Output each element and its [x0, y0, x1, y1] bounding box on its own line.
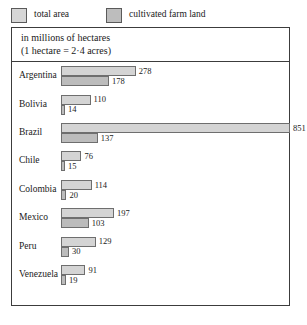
- bar-farm: [61, 218, 89, 228]
- legend-label-cultivated-farm-land: cultivated farm land: [129, 10, 206, 20]
- bar-row-farm: 30: [61, 247, 287, 257]
- country-label: Bolivia: [19, 100, 47, 110]
- bar-row-farm: 20: [61, 190, 287, 200]
- bar-farm: [61, 161, 65, 171]
- bar-row-total: 110: [61, 95, 287, 105]
- bar-row-total: 197: [61, 208, 287, 218]
- legend-item-cultivated-farm-land: cultivated farm land: [106, 8, 206, 23]
- bar-total: [61, 208, 114, 218]
- country-label: Chile: [19, 157, 40, 167]
- bar-row-farm: 19: [61, 275, 287, 285]
- chart-legend: total area cultivated farm land: [11, 5, 206, 25]
- chart-row: Bolivia11014: [12, 90, 289, 118]
- bar-value-farm: 14: [68, 105, 77, 114]
- chart-title: in millions of hectares: [21, 32, 289, 45]
- bar-value-farm: 20: [69, 191, 78, 200]
- bar-value-total: 197: [117, 209, 130, 218]
- bar-farm: [61, 133, 98, 143]
- bar-row-total: 278: [61, 66, 287, 76]
- bar-group: 197103: [61, 208, 287, 228]
- chart-plot-area: Argentina278178Bolivia11014Brazil851137C…: [12, 62, 289, 305]
- country-label: Colombia: [19, 185, 56, 195]
- bar-group: 7615: [61, 151, 287, 171]
- chart-row: Chile7615: [12, 147, 289, 175]
- bar-group: 12930: [61, 237, 287, 257]
- chart-title-block: in millions of hectares (1 hectare = 2·4…: [12, 28, 289, 62]
- bar-row-total: 114: [61, 180, 287, 190]
- bar-total: [61, 237, 96, 247]
- bar-farm: [61, 275, 66, 285]
- bar-value-farm: 178: [112, 77, 125, 86]
- legend-item-total-area: total area: [11, 8, 69, 23]
- chart-row: Peru12930: [12, 232, 289, 260]
- legend-swatch-total-area: [11, 8, 27, 23]
- bar-group: 851137: [61, 123, 287, 143]
- country-label: Mexico: [19, 213, 48, 223]
- bar-total: [61, 66, 136, 76]
- country-label: Peru: [19, 242, 36, 252]
- bar-value-total: 91: [88, 266, 97, 275]
- country-label: Argentina: [19, 71, 57, 81]
- bar-total: [61, 265, 85, 275]
- bar-row-total: 129: [61, 237, 287, 247]
- bar-total: [61, 180, 92, 190]
- chart-subtitle: (1 hectare = 2·4 acres): [21, 45, 289, 58]
- bar-row-farm: 14: [61, 105, 287, 115]
- bar-value-farm: 103: [92, 219, 105, 228]
- bar-value-farm: 19: [69, 276, 78, 285]
- bar-total: [61, 151, 81, 161]
- country-label: Venezuela: [19, 270, 58, 280]
- bar-value-total: 76: [84, 152, 93, 161]
- bar-value-farm: 15: [68, 162, 77, 171]
- bar-farm: [61, 190, 66, 200]
- bar-farm: [61, 247, 69, 257]
- chart-row: Venezuela9119: [12, 261, 289, 289]
- bar-total: [61, 123, 290, 133]
- chart-frame: in millions of hectares (1 hectare = 2·4…: [11, 27, 290, 306]
- bar-group: 278178: [61, 66, 287, 86]
- bar-row-farm: 103: [61, 218, 287, 228]
- legend-swatch-cultivated-farm-land: [106, 8, 122, 23]
- chart-row: Colombia11420: [12, 176, 289, 204]
- bar-row-total: 76: [61, 151, 287, 161]
- bar-group: 11420: [61, 180, 287, 200]
- bar-farm: [61, 76, 109, 86]
- legend-label-total-area: total area: [34, 10, 69, 20]
- bar-row-total: 91: [61, 265, 287, 275]
- bar-row-total: 851: [61, 123, 287, 133]
- bar-group: 11014: [61, 95, 287, 115]
- country-label: Brazil: [19, 128, 42, 138]
- bar-value-total: 114: [95, 181, 107, 190]
- bar-row-farm: 178: [61, 76, 287, 86]
- bar-farm: [61, 105, 65, 115]
- chart-row: Mexico197103: [12, 204, 289, 232]
- bar-value-total: 110: [94, 95, 106, 104]
- bar-value-total: 851: [293, 124, 306, 133]
- bar-row-farm: 15: [61, 161, 287, 171]
- bar-value-total: 129: [99, 237, 112, 246]
- bar-value-farm: 137: [101, 134, 114, 143]
- bar-value-farm: 30: [72, 247, 81, 256]
- bar-value-total: 278: [139, 67, 152, 76]
- bar-group: 9119: [61, 265, 287, 285]
- chart-row: Brazil851137: [12, 119, 289, 147]
- chart-row: Argentina278178: [12, 62, 289, 90]
- bar-row-farm: 137: [61, 133, 287, 143]
- bar-total: [61, 95, 91, 105]
